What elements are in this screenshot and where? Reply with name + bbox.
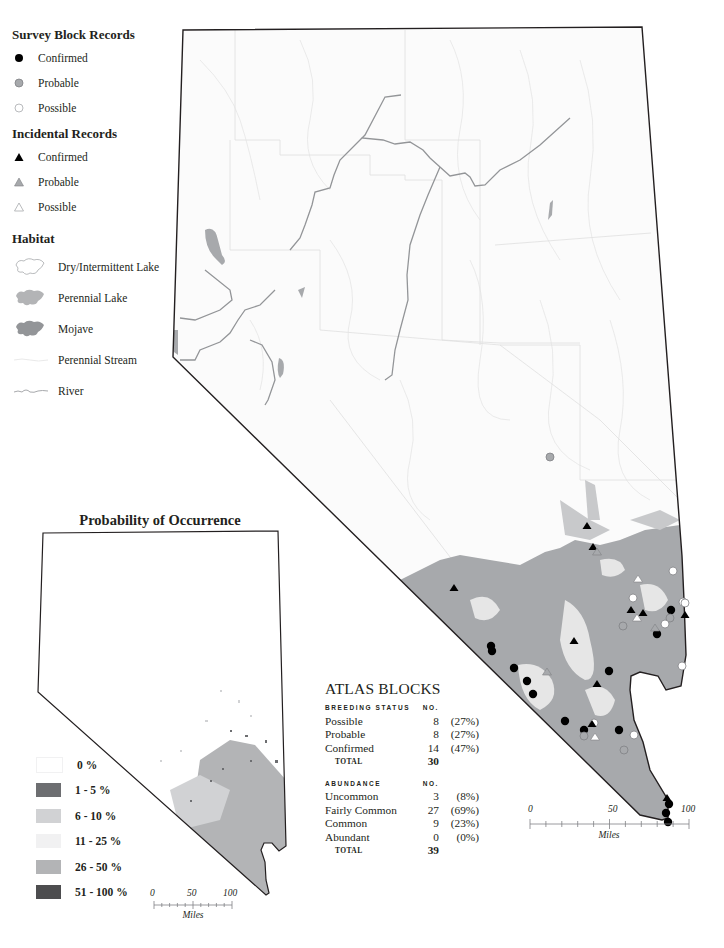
table-row: Uncommon 3 (8%) <box>325 790 479 804</box>
probability-class-4: 26 - 50 % <box>36 854 128 880</box>
total-row: TOTAL 30 <box>325 755 479 769</box>
swatch-2 <box>36 809 61 823</box>
probability-scale-bar: 0 50 100 Miles <box>150 888 240 920</box>
swatch-3 <box>36 834 61 848</box>
atlas-blocks: ATLAS BLOCKS BREEDING STATUS NO. Possibl… <box>325 680 479 858</box>
swatch-5 <box>36 885 61 899</box>
probability-legend: 0 % 1 - 5 % 6 - 10 % 11 - 25 % 26 - 50 %… <box>36 752 128 905</box>
probability-class-5: 51 - 100 % <box>36 880 128 906</box>
probability-class-1: 1 - 5 % <box>36 778 128 804</box>
table-row: Common 9 (23%) <box>325 817 479 831</box>
probability-class-2: 6 - 10 % <box>36 803 128 829</box>
table-row: Confirmed 14 (47%) <box>325 742 479 756</box>
probability-scale-ticks <box>150 900 236 910</box>
swatch-1 <box>36 783 61 797</box>
main-scale-bar: 0 50 100 Miles <box>526 804 696 840</box>
atlas-title: ATLAS BLOCKS <box>325 680 479 698</box>
probability-class-3: 11 - 25 % <box>36 829 128 855</box>
swatch-0 <box>36 757 63 773</box>
total-row: TOTAL 39 <box>325 844 479 858</box>
table-row: Probable 8 (27%) <box>325 728 479 742</box>
table-row: Abundant 0 (0%) <box>325 831 479 845</box>
atlas-table: BREEDING STATUS NO. Possible 8 (27%) Pro… <box>325 701 479 858</box>
table-row: Fairly Common 27 (69%) <box>325 804 479 818</box>
probability-class-0: 0 % <box>36 752 128 778</box>
swatch-4 <box>36 860 61 874</box>
table-row: Possible 8 (27%) <box>325 715 479 729</box>
main-scale-ticks <box>526 818 696 830</box>
